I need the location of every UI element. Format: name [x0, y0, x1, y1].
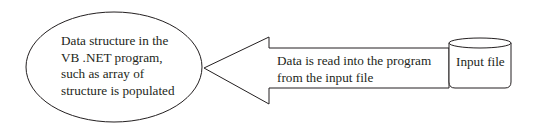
data-structure-label: Data structure in the VB .NET program, s… [61, 33, 175, 99]
arrow-label: Data is read into the program from the i… [277, 53, 431, 86]
data-structure-line-1: Data structure in the [61, 33, 175, 50]
data-structure-line-3: such as array of [61, 66, 175, 83]
data-structure-line-4: structure is populated [61, 83, 175, 100]
data-structure-line-2: VB .NET program, [61, 50, 175, 67]
input-file-label: Input file [456, 54, 505, 71]
arrow-line-1: Data is read into the program [277, 53, 431, 70]
arrow-line-2: from the input file [277, 70, 431, 87]
